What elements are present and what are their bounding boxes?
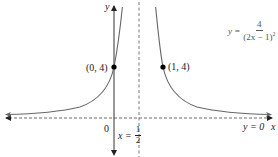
vertical-asymptote-lhs: x = <box>118 130 132 141</box>
equation-numerator: 4 <box>256 20 263 31</box>
point-label-0-4: (0, 4) <box>86 63 108 73</box>
point-label-1-4: (1, 4) <box>168 62 190 72</box>
point-1-4 <box>160 64 165 69</box>
x-axis-label: x <box>271 122 275 132</box>
function-equation: y = 4 (2x − 1)2 <box>228 20 275 43</box>
fraction-denominator: 2 <box>136 136 141 146</box>
horizontal-asymptote-label: y = 0 <box>243 122 264 132</box>
equation-fraction: 4 (2x − 1)2 <box>243 20 275 43</box>
curve-left-branch <box>6 7 122 115</box>
equation-lhs: y = <box>228 26 240 36</box>
fraction-one-half: 1 2 <box>135 125 142 146</box>
equation-denominator-base: (2x − 1) <box>243 32 272 42</box>
equation-exponent: 2 <box>272 31 275 37</box>
equation-denominator: (2x − 1)2 <box>243 31 275 43</box>
y-axis-label: y <box>105 2 109 12</box>
origin-label: 0 <box>104 124 109 134</box>
vertical-asymptote-label: x = 1 2 <box>118 125 141 146</box>
point-0-4 <box>111 64 116 69</box>
